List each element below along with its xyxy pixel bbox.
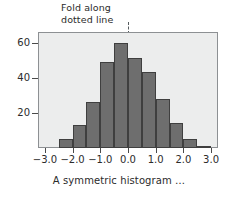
histogram-bars: [38, 32, 218, 148]
y-tick-mark: [32, 113, 38, 114]
y-tick-label: 40: [0, 72, 30, 83]
x-tick-label: 0.0: [113, 154, 143, 165]
x-tick-label: −1.0: [85, 154, 115, 165]
figure-caption: A symmetric histogram …: [0, 175, 238, 186]
x-tick-label: 3.0: [196, 154, 226, 165]
x-tick-mark: [45, 148, 46, 153]
histogram-bar: [100, 62, 114, 148]
x-tick-mark: [128, 148, 129, 153]
y-tick-label: 20: [0, 107, 30, 118]
histogram-bar: [59, 139, 73, 148]
x-tick-mark: [100, 148, 101, 153]
histogram-bar: [73, 125, 87, 148]
x-tick-label: −2.0: [58, 154, 88, 165]
y-tick-mark: [32, 43, 38, 44]
x-tick-mark: [73, 148, 74, 153]
histogram-bar: [114, 43, 128, 148]
x-tick-label: 2.0: [168, 154, 198, 165]
y-tick-label: 60: [0, 37, 30, 48]
x-tick-mark: [156, 148, 157, 153]
histogram-bar: [142, 72, 156, 148]
x-tick-mark: [211, 148, 212, 153]
histogram-bar: [86, 102, 100, 148]
x-tick-mark: [183, 148, 184, 153]
x-tick-label: −3.0: [30, 154, 60, 165]
histogram-bar: [197, 146, 211, 148]
histogram-bar: [156, 99, 170, 148]
histogram-bar: [128, 58, 142, 148]
histogram-figure: Fold along dotted line 204060 −3.0−2.0−1…: [0, 0, 238, 198]
histogram-bar: [170, 123, 184, 148]
histogram-bar: [183, 139, 197, 148]
fold-annotation-label: Fold along dotted line: [61, 2, 211, 26]
y-tick-mark: [32, 78, 38, 79]
x-tick-label: 1.0: [141, 154, 171, 165]
